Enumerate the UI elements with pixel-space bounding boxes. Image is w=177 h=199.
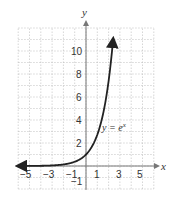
exponential-chart: x y −5 −3 −1 1 3 5 10 8 6 4 2 −1 y = ex <box>0 0 177 199</box>
y-tick: 6 <box>76 92 82 103</box>
x-tick: 1 <box>94 169 100 180</box>
x-tick: 3 <box>116 169 122 180</box>
y-tick: 8 <box>76 69 82 80</box>
y-axis-label: y <box>81 6 87 18</box>
x-tick: −5 <box>20 169 32 180</box>
x-axis-label: x <box>160 160 166 172</box>
y-tick: 2 <box>76 138 82 149</box>
y-tick: −1 <box>71 176 83 187</box>
y-tick: 10 <box>71 46 83 57</box>
curve-label: y = ex <box>101 121 127 133</box>
y-tick: 4 <box>76 115 82 126</box>
x-tick: 5 <box>137 169 143 180</box>
exp-curve <box>23 39 113 166</box>
x-tick: −3 <box>43 169 55 180</box>
